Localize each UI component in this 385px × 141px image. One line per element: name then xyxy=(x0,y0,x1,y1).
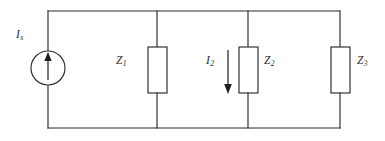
circuit-diagram: Is Z1 I2 Z2 Z3 xyxy=(0,0,385,141)
label-impedance-z3: Z3 xyxy=(357,55,367,67)
label-impedance-z1: Z1 xyxy=(116,55,126,67)
impedance-z3-body xyxy=(331,47,350,93)
impedance-z2-body xyxy=(239,47,258,93)
label-source-current: Is xyxy=(16,29,23,41)
impedance-z1-body xyxy=(148,47,167,93)
label-impedance-z2: Z2 xyxy=(264,55,274,67)
circuit-schematic-canvas xyxy=(0,0,385,141)
branch-current-i2-arrow-head-down xyxy=(224,84,232,94)
label-branch-current-i2: I2 xyxy=(206,55,214,67)
